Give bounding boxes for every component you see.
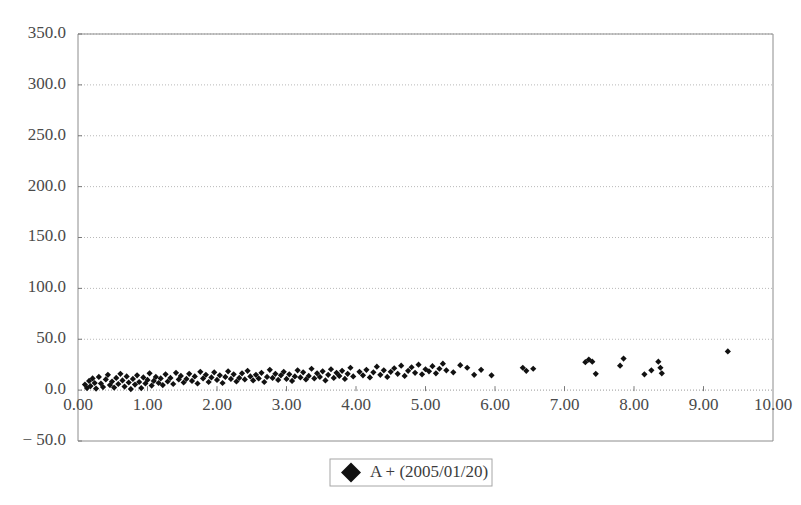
- data-point: [308, 366, 314, 372]
- data-point: [297, 374, 303, 380]
- data-point: [657, 365, 663, 371]
- data-point: [121, 383, 127, 389]
- data-point: [659, 370, 665, 376]
- data-point: [374, 364, 380, 370]
- data-point: [124, 373, 130, 379]
- data-point: [384, 374, 390, 380]
- scatter-chart: 350.0300.0250.0200.0150.0100.050.00.0− 5…: [0, 0, 801, 505]
- x-axis-ticks: 0.001.002.003.004.005.006.007.008.009.00…: [63, 386, 792, 414]
- data-point: [134, 372, 140, 378]
- data-point: [381, 367, 387, 373]
- data-point: [641, 371, 647, 377]
- x-tick-label: 1.00: [133, 395, 163, 414]
- x-tick-label: 9.00: [689, 395, 719, 414]
- data-point: [242, 376, 248, 382]
- data-point: [412, 370, 418, 376]
- data-point: [295, 367, 301, 373]
- data-point: [402, 373, 408, 379]
- y-tick-label: − 50.0: [22, 430, 66, 449]
- data-point: [725, 348, 731, 354]
- data-point: [320, 368, 326, 374]
- data-point: [620, 355, 626, 361]
- data-point: [328, 366, 334, 372]
- data-point: [395, 371, 401, 377]
- chart-canvas: 350.0300.0250.0200.0150.0100.050.00.0− 5…: [0, 0, 801, 505]
- data-points: [82, 348, 731, 392]
- x-tick-label: 0.00: [63, 395, 93, 414]
- data-point: [126, 379, 132, 385]
- data-point: [311, 375, 317, 381]
- data-point: [377, 372, 383, 378]
- y-axis-ticks: 350.0300.0250.0200.0150.0100.050.00.0− 5…: [22, 23, 82, 449]
- x-tick-label: 6.00: [480, 395, 510, 414]
- data-point: [197, 369, 203, 375]
- data-point: [96, 374, 102, 380]
- data-point: [244, 368, 250, 374]
- data-point: [219, 380, 225, 386]
- data-point: [350, 373, 356, 379]
- data-point: [443, 367, 449, 373]
- x-tick-label: 10.00: [754, 395, 792, 414]
- x-tick-label: 8.00: [619, 395, 649, 414]
- data-point: [225, 368, 231, 374]
- data-point: [370, 369, 376, 375]
- chart-legend: A + (2005/01/20): [330, 459, 492, 486]
- data-point: [211, 369, 217, 375]
- data-point: [331, 375, 337, 381]
- data-point: [363, 367, 369, 373]
- data-point: [478, 367, 484, 373]
- data-point: [128, 386, 134, 392]
- data-point: [162, 371, 168, 377]
- data-point: [347, 365, 353, 371]
- data-point: [450, 369, 456, 375]
- data-point: [130, 376, 136, 382]
- data-point: [173, 370, 179, 376]
- y-tick-label: 250.0: [28, 125, 66, 144]
- x-tick-label: 5.00: [411, 395, 441, 414]
- y-tick-label: 150.0: [28, 226, 66, 245]
- x-tick-label: 2.00: [202, 395, 232, 414]
- data-point: [440, 361, 446, 367]
- plot-frame: [78, 34, 773, 441]
- y-tick-label: 50.0: [36, 328, 66, 347]
- data-point: [488, 372, 494, 378]
- data-point: [194, 380, 200, 386]
- data-point: [464, 365, 470, 371]
- data-point: [415, 362, 421, 368]
- data-point: [471, 372, 477, 378]
- data-point: [300, 369, 306, 375]
- data-point: [433, 370, 439, 376]
- data-point: [530, 366, 536, 372]
- data-point: [186, 371, 192, 377]
- y-tick-label: 200.0: [28, 176, 66, 195]
- y-tick-label: 350.0: [28, 23, 66, 42]
- x-tick-label: 4.00: [341, 395, 371, 414]
- y-tick-label: 300.0: [28, 74, 66, 93]
- data-point: [345, 371, 351, 377]
- data-point: [325, 372, 331, 378]
- data-point: [258, 370, 264, 376]
- data-point: [117, 371, 123, 377]
- data-point: [119, 377, 125, 383]
- data-point: [398, 363, 404, 369]
- data-point: [617, 363, 623, 369]
- data-point: [261, 379, 267, 385]
- data-point: [170, 381, 176, 387]
- x-tick-label: 7.00: [550, 395, 580, 414]
- data-point: [322, 377, 328, 383]
- data-point: [222, 374, 228, 380]
- data-point: [267, 367, 273, 373]
- data-point: [115, 381, 121, 387]
- data-point: [339, 368, 345, 374]
- data-point: [436, 366, 442, 372]
- y-tick-label: 100.0: [28, 277, 66, 296]
- data-point: [113, 375, 119, 381]
- data-point: [457, 362, 463, 368]
- data-point: [93, 385, 99, 391]
- data-point: [648, 367, 654, 373]
- gridlines: [78, 34, 773, 390]
- data-point: [146, 370, 152, 376]
- data-point: [367, 374, 373, 380]
- data-point: [593, 371, 599, 377]
- x-tick-label: 3.00: [272, 395, 302, 414]
